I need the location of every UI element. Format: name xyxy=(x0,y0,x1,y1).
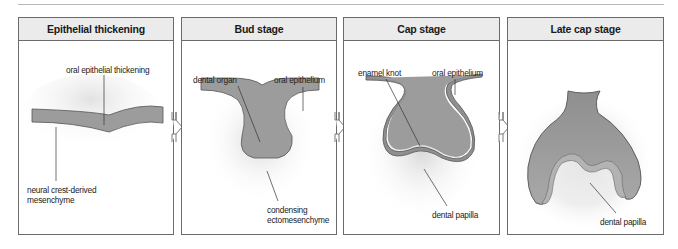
panel-late-cap-stage: Late cap stage dental papilla xyxy=(507,17,664,235)
label-oral-epithelium: oral epithelium xyxy=(274,75,325,85)
label-condensing: condensing xyxy=(267,205,308,215)
label-neural-crest: neural crest-derived xyxy=(27,185,97,195)
panel-cap-stage: Cap stage enamel knot oral epithelium de… xyxy=(343,17,500,235)
label-oral-epithelium: oral epithelium xyxy=(432,68,483,78)
panel-title: Cap stage xyxy=(344,18,499,41)
top-rule xyxy=(18,4,664,5)
bud-stage-illustration: dental organ oral epithelium condensing … xyxy=(182,41,336,235)
panel-title: Epithelial thickening xyxy=(19,18,173,41)
label-enamel-knot: enamel knot xyxy=(358,68,402,78)
panel-title: Bud stage xyxy=(182,18,336,41)
cap-stage-illustration: enamel knot oral epithelium dental papil… xyxy=(344,41,499,235)
late-cap-stage-illustration: dental papilla xyxy=(508,41,663,235)
label-dental-papilla: dental papilla xyxy=(600,217,647,227)
label-dental-organ: dental organ xyxy=(193,75,237,85)
label-dental-papilla: dental papilla xyxy=(432,210,479,220)
label-oral-epithelial-thickening: oral epithelial thickening xyxy=(66,65,150,75)
panel-title: Late cap stage xyxy=(508,18,663,41)
label-mesenchyme: mesenchyme xyxy=(27,195,75,205)
panel-bud-stage: Bud stage dental organ oral epithelium c… xyxy=(181,17,337,235)
panel-epithelial-thickening: Epithelial thickening oral epithelial th… xyxy=(18,17,174,235)
epithelial-thickening-illustration: oral epithelial thickening neural crest-… xyxy=(19,41,173,235)
label-ectomesenchyme: ectomesenchyme xyxy=(267,215,330,225)
